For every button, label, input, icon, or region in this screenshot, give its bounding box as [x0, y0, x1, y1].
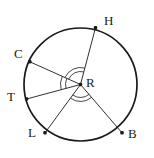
point-label-T: T: [7, 90, 15, 103]
point-dot-R: [79, 83, 82, 86]
point-dot-T: [25, 97, 28, 100]
point-label-B: B: [128, 127, 137, 140]
point-label-L: L: [28, 126, 36, 139]
point-label-C: C: [14, 47, 23, 60]
radius-RC: [30, 62, 81, 85]
point-label-H: H: [104, 14, 113, 27]
circle-diagram: HCTLBR: [0, 0, 154, 158]
angle-arc-CRT-outer: [61, 76, 63, 89]
point-dot-L: [43, 131, 46, 134]
angle-arc-HRC-inner: [69, 71, 84, 79]
angle-arc-LRB-outer: [70, 97, 91, 101]
point-dot-C: [28, 60, 31, 63]
angle-arc-CRT-inner: [65, 78, 66, 88]
point-dot-B: [120, 131, 123, 134]
point-dot-H: [94, 26, 97, 29]
point-dots-group: [25, 26, 124, 134]
radius-RL: [45, 85, 81, 133]
radius-RB: [81, 85, 123, 133]
angle-arc-LRB-inner: [73, 94, 89, 97]
point-label-R: R: [86, 76, 95, 89]
radius-RT: [27, 85, 81, 100]
